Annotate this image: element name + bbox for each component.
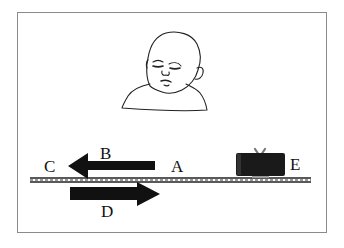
train-car-icon xyxy=(236,149,285,178)
track xyxy=(30,178,311,182)
arrow-left-icon xyxy=(68,153,155,179)
label-c: C xyxy=(44,158,55,175)
diagram-canvas xyxy=(0,0,344,248)
label-e: E xyxy=(290,156,300,173)
label-a: A xyxy=(171,158,183,175)
label-b: B xyxy=(100,145,111,162)
infant-figure xyxy=(122,32,207,111)
label-d: D xyxy=(101,203,113,220)
arrow-right-icon xyxy=(70,182,160,206)
